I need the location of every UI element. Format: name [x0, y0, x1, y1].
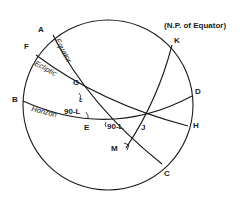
- label-h: H: [193, 121, 199, 130]
- ecliptic-curve: [36, 55, 188, 126]
- celestial-sphere-diagram: A F B G E J M C D H K (N.P. of Equator) …: [0, 0, 245, 199]
- hour-circle-curve: [126, 45, 172, 148]
- label-c: C: [164, 169, 170, 178]
- angle-e-label: 90-L: [64, 107, 81, 116]
- angle-equator-horizon-label: 90-L: [107, 122, 124, 131]
- north-pole-note: (N.P. of Equator): [164, 21, 226, 30]
- label-g: G: [73, 78, 79, 87]
- celestial-sphere-circle: [23, 20, 193, 190]
- horizon-label: Horizon: [31, 104, 58, 119]
- label-f: F: [24, 42, 29, 51]
- label-k: K: [174, 36, 180, 45]
- equator-label: Equator: [53, 37, 74, 65]
- obliquity-label: ε: [79, 96, 83, 103]
- angle-arc-equator-horizon: [105, 122, 106, 127]
- label-b: B: [12, 95, 18, 104]
- label-m: M: [111, 144, 118, 153]
- label-e: E: [84, 123, 90, 132]
- label-d: D: [195, 87, 201, 96]
- label-j: J: [141, 123, 145, 132]
- label-a: A: [38, 25, 44, 34]
